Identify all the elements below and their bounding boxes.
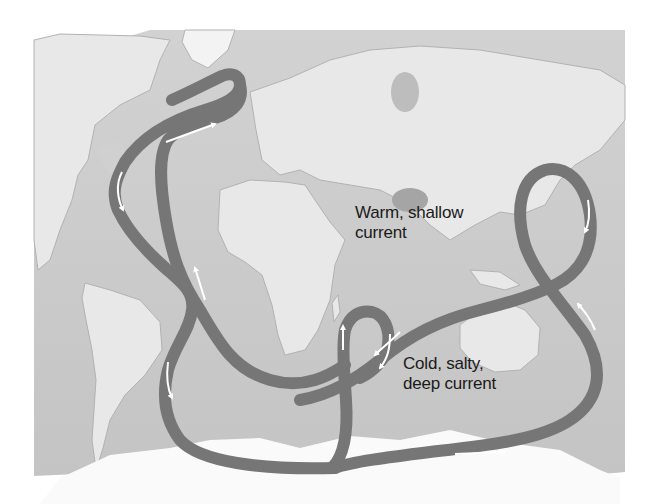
cold-label-line1: Cold, salty, xyxy=(403,354,496,374)
cold-deep-current-label: Cold, salty, deep current xyxy=(403,354,496,394)
warm-shallow-current-label: Warm, shallow current xyxy=(355,203,463,243)
warm-label-line1: Warm, shallow xyxy=(355,203,463,223)
cold-label-line2: deep current xyxy=(403,374,496,394)
warm-label-line2: current xyxy=(355,223,463,243)
conveyor-belt-map xyxy=(0,0,652,504)
